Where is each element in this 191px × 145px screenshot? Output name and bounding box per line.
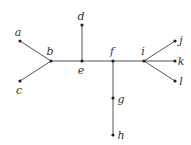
node-b xyxy=(49,59,52,62)
node-label-j: j xyxy=(179,35,182,46)
node-f xyxy=(111,59,114,62)
node-label-f: f xyxy=(110,46,114,57)
node-label-i: i xyxy=(141,46,145,57)
tree-diagram: abcdefghijkl xyxy=(0,0,191,145)
node-label-d: d xyxy=(77,11,84,22)
node-l xyxy=(173,79,176,82)
node-a xyxy=(18,39,21,42)
node-c xyxy=(18,79,21,82)
tree-edges xyxy=(0,0,191,145)
node-h xyxy=(111,133,114,136)
edge-i-j xyxy=(144,41,175,61)
node-label-k: k xyxy=(178,56,185,67)
node-i xyxy=(142,59,145,62)
node-label-l: l xyxy=(179,76,183,87)
edge-i-l xyxy=(144,61,175,81)
node-label-b: b xyxy=(46,46,53,57)
node-label-e: e xyxy=(78,65,85,76)
node-label-h: h xyxy=(117,130,124,141)
node-d xyxy=(80,23,83,26)
node-j xyxy=(173,39,176,42)
node-label-a: a xyxy=(15,27,22,38)
edge-c-b xyxy=(20,61,51,81)
node-label-g: g xyxy=(117,94,124,105)
node-k xyxy=(173,59,176,62)
node-e xyxy=(80,59,83,62)
node-label-c: c xyxy=(16,85,22,96)
node-g xyxy=(111,96,114,99)
